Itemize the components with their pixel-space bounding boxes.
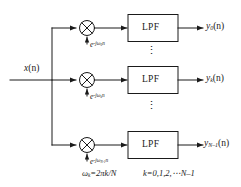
carrier-label-branch-0: e-jω0n xyxy=(90,41,105,49)
vertical-ellipsis-lower: ⋮ xyxy=(146,100,157,111)
lpf-label-branch-k: LPF xyxy=(142,75,159,85)
carrier-label-branch-n-1: e-jωN-1n xyxy=(90,158,108,166)
output-label-branch-k: yk(n) xyxy=(206,74,224,84)
omega-formula: ωk=2πk/N xyxy=(82,169,116,178)
input-signal-label: x(n) xyxy=(24,64,39,74)
output-label-branch-0: y0(n) xyxy=(206,22,224,32)
lpf-label-branch-n-1: LPF xyxy=(142,140,159,150)
output-label-branch-n-1: yN–1(n) xyxy=(204,139,229,149)
diagram-canvas xyxy=(0,0,241,187)
multiplier-branch-k xyxy=(80,73,95,88)
carrier-label-branch-k: e-jωkn xyxy=(90,93,105,101)
multiplier-branch-0 xyxy=(80,21,95,36)
multiplier-branch-n-1 xyxy=(80,138,95,153)
vertical-ellipsis-upper: ⋮ xyxy=(146,45,157,56)
lpf-label-branch-0: LPF xyxy=(142,23,159,33)
dft-filter-bank-diagram: x(n) LPF LPF LPF e-jω0n e-jωkn e-jωN-1n … xyxy=(0,0,241,187)
index-formula: k=0,1,2,⋯N–1 xyxy=(143,169,195,178)
